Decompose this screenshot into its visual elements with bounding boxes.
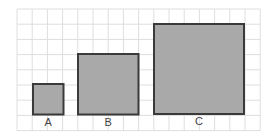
square-label: A bbox=[45, 116, 53, 128]
square-c bbox=[154, 24, 244, 114]
square-b bbox=[78, 54, 139, 115]
square-label: B bbox=[105, 116, 112, 128]
square-label: C bbox=[195, 115, 203, 127]
squares-diagram: ABC bbox=[0, 0, 269, 133]
square-a bbox=[33, 84, 64, 115]
